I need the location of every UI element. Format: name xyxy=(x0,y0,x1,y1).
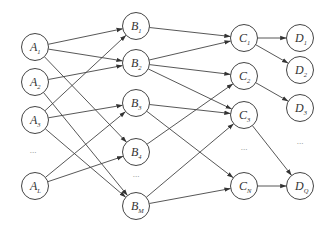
ellipsis-layer-B: ... xyxy=(133,169,140,179)
node-C2: C2 xyxy=(231,63,258,90)
node-AL: AL xyxy=(22,173,49,200)
node-CN: CN xyxy=(231,173,258,200)
node-D2: D2 xyxy=(287,57,314,84)
edge-C1-D2 xyxy=(256,45,289,64)
edge-B3-CN xyxy=(147,111,234,178)
edge-A3-BM xyxy=(45,129,125,197)
node-C1: C1 xyxy=(231,25,258,52)
edge-B2-C3 xyxy=(148,69,232,109)
edge-C2-D3 xyxy=(256,83,289,102)
edge-C3-DQ xyxy=(252,126,291,176)
edge-AL-B3 xyxy=(45,112,125,178)
node-D3: D3 xyxy=(287,95,314,122)
node-A1: A1 xyxy=(22,34,49,61)
edge-A1-B1 xyxy=(48,29,123,45)
node-B1: B1 xyxy=(123,13,150,40)
layered-graph-diagram: A1A2A3ALB1B2B3B4BMC1C2C3CND1D2D3DQ .....… xyxy=(0,0,330,225)
ellipsis-layer-A: ... xyxy=(30,145,37,155)
node-C3: C3 xyxy=(231,102,258,129)
node-A3: A3 xyxy=(22,107,49,134)
ellipsis-layer-D: ... xyxy=(297,136,304,146)
node-BM: BM xyxy=(123,193,150,220)
edge-B1-C1 xyxy=(149,28,230,37)
edge-AL-B4 xyxy=(48,156,123,181)
node-B3: B3 xyxy=(123,90,150,117)
edge-BM-CN xyxy=(149,189,230,204)
edge-B2-C1 xyxy=(149,41,231,60)
edge-BM-C3 xyxy=(146,124,233,198)
node-B4: B4 xyxy=(123,139,150,166)
node-B2: B2 xyxy=(123,50,150,77)
ellipsis-group: ............ xyxy=(30,136,304,179)
edge-A1-B2 xyxy=(48,49,122,61)
edge-B2-C2 xyxy=(149,65,230,75)
node-D1: D1 xyxy=(287,25,314,52)
ellipsis-layer-C: ... xyxy=(241,142,248,152)
nodes-group: A1A2A3ALB1B2B3B4BMC1C2C3CND1D2D3DQ xyxy=(22,13,314,220)
node-DQ: DQ xyxy=(287,173,314,200)
edge-B3-C3 xyxy=(149,105,230,114)
node-A2: A2 xyxy=(22,69,49,96)
